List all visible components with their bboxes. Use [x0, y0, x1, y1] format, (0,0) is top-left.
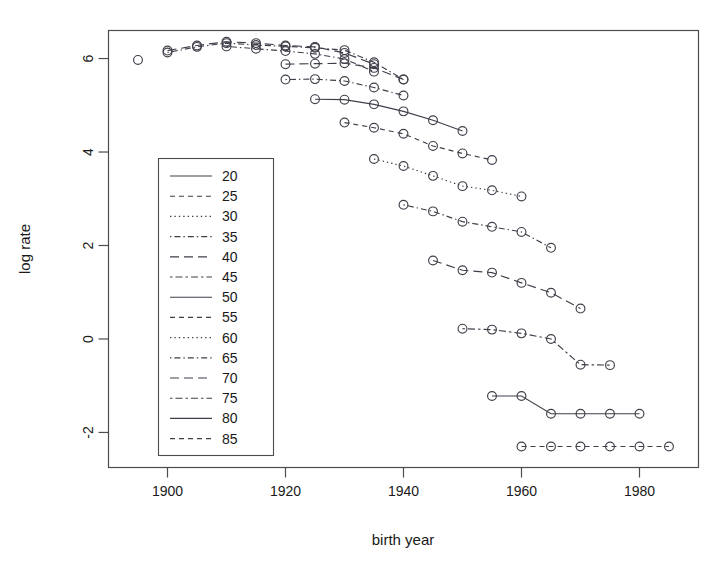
chart-legend[interactable]: 2025303540455055606570758085 [159, 159, 274, 456]
y-tick-label: 0 [81, 335, 97, 343]
data-point [547, 288, 556, 297]
series-line-45 [463, 329, 611, 365]
y-axis-ticks [99, 59, 109, 433]
series-75 [222, 42, 378, 76]
series-85 [281, 75, 408, 100]
x-tick-label: 1940 [388, 483, 419, 499]
legend-label: 85 [222, 431, 238, 447]
legend-label: 75 [222, 390, 238, 406]
legend-label: 35 [222, 229, 238, 245]
data-point [458, 149, 467, 158]
data-point [399, 129, 408, 138]
legend-label: 50 [222, 289, 238, 305]
data-point [517, 192, 526, 201]
legend-label: 65 [222, 350, 238, 366]
legend-label: 70 [222, 370, 238, 386]
data-point [134, 56, 143, 65]
data-point [606, 361, 615, 370]
series-50 [488, 392, 644, 419]
x-axis-ticks [168, 468, 640, 478]
data-point [429, 207, 438, 216]
legend-label: 40 [222, 249, 238, 265]
series-45 [458, 324, 614, 369]
y-tick-label: -2 [81, 426, 97, 439]
series-25 [340, 118, 496, 164]
legend-label: 80 [222, 410, 238, 426]
y-tick-label: 4 [81, 148, 97, 156]
series-80 [281, 59, 408, 84]
x-axis-title: birth year [372, 531, 435, 548]
data-point [488, 156, 497, 165]
legend-label: 25 [222, 188, 238, 204]
y-axis-tick-labels: 6420-2 [81, 54, 97, 438]
legend-box [159, 159, 274, 456]
series-line-75 [227, 46, 375, 71]
series-line-25 [345, 123, 493, 160]
series-20 [311, 95, 467, 136]
legend-label: 60 [222, 330, 238, 346]
series-30 [370, 155, 526, 201]
series-line-70 [168, 42, 375, 64]
series-line-35 [404, 205, 552, 248]
series-line-50 [492, 396, 640, 414]
x-tick-label: 1920 [270, 483, 301, 499]
y-tick-label: 2 [81, 241, 97, 249]
series-line-40 [433, 260, 581, 308]
legend-label: 55 [222, 309, 238, 325]
y-tick-label: 6 [81, 54, 97, 62]
x-tick-label: 1900 [152, 483, 183, 499]
series-40 [429, 256, 585, 313]
line-chart: 2025303540455055606570758085 19001920194… [0, 0, 728, 571]
x-axis-tick-labels: 19001920194019601980 [152, 483, 655, 499]
series-55 [517, 442, 673, 451]
data-point [399, 91, 408, 100]
data-point [547, 243, 556, 252]
data-point [399, 162, 408, 171]
data-point [429, 171, 438, 180]
legend-label: 45 [222, 269, 238, 285]
x-tick-label: 1960 [506, 483, 537, 499]
x-tick-label: 1980 [624, 483, 655, 499]
series-line-85 [286, 79, 404, 95]
legend-label: 20 [222, 168, 238, 184]
series-35 [399, 200, 555, 252]
y-axis-title: log rate [16, 224, 33, 274]
series-line-30 [374, 159, 522, 196]
series-60 [134, 56, 143, 65]
legend-label: 30 [222, 208, 238, 224]
chart-container: 2025303540455055606570758085 19001920194… [0, 0, 728, 571]
series-line-20 [315, 99, 463, 131]
